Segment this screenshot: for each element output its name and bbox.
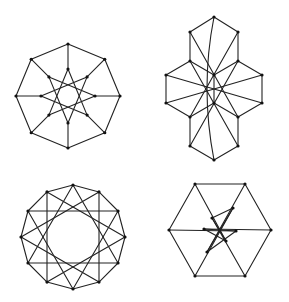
- graph-edge: [87, 59, 105, 77]
- graph-edge: [190, 146, 214, 160]
- graph-edge: [169, 230, 195, 276]
- graph-vertex: [93, 94, 96, 97]
- graph-edge: [105, 59, 120, 96]
- graph-edge: [47, 192, 125, 237]
- graph-vertex: [14, 94, 17, 97]
- graph-vertex: [26, 261, 29, 264]
- graph-edge: [28, 263, 47, 282]
- graph-edge: [73, 185, 118, 263]
- graph-edge: [68, 44, 105, 59]
- graph-vertex: [118, 94, 121, 97]
- graph-edge: [21, 192, 99, 237]
- graph-vertex: [210, 216, 213, 219]
- graph-vertex: [188, 30, 191, 33]
- graph-edge: [28, 192, 47, 211]
- graph-edge: [238, 103, 262, 117]
- graph-edge: [21, 237, 99, 282]
- graph-vertex: [234, 229, 237, 232]
- graph-vertex: [212, 73, 215, 76]
- graph-vertex: [30, 58, 33, 61]
- graph-edge: [31, 133, 68, 148]
- graph-vertex: [39, 94, 42, 97]
- graph-vertex: [188, 115, 191, 118]
- graph-vertex: [116, 261, 119, 264]
- graph-vertex: [47, 113, 50, 116]
- graph-vertex: [193, 274, 196, 277]
- graph-edge: [16, 96, 31, 133]
- graph-edge: [245, 184, 271, 230]
- graph-edge: [238, 61, 262, 75]
- graph-vertex: [205, 250, 208, 253]
- graph-vertex: [188, 144, 191, 147]
- graph-edge: [169, 184, 195, 230]
- graph-vertex: [260, 101, 263, 104]
- graph-vertex: [164, 101, 167, 104]
- graph-vertex: [30, 131, 33, 134]
- graph-vertex: [103, 58, 106, 61]
- graph-vertex: [66, 121, 69, 124]
- graph-vertex: [224, 239, 227, 242]
- graph-edge: [166, 61, 190, 75]
- graph-edge: [31, 59, 49, 77]
- graph-edge: [245, 230, 271, 276]
- graph-vertex: [236, 59, 239, 62]
- graph-vertex: [85, 113, 88, 116]
- graph-vertex: [66, 146, 69, 149]
- graph-edge: [105, 96, 120, 133]
- graph-diagram-canvas: [0, 0, 289, 302]
- graph-edge: [68, 133, 105, 148]
- graph-vertex: [26, 209, 29, 212]
- graph-vertex: [164, 73, 167, 76]
- graph-edge: [87, 115, 105, 133]
- graph-edge: [190, 17, 214, 32]
- graph-edge: [28, 185, 73, 263]
- graph-vertex: [193, 182, 196, 185]
- graph-vertex: [212, 158, 215, 161]
- graph-vertex: [167, 228, 170, 231]
- graph-edge: [47, 237, 125, 282]
- graph-vertex: [188, 59, 191, 62]
- graph-vertex: [236, 115, 239, 118]
- graph-edge: [31, 115, 49, 133]
- hexagon-twisted-star-graph: [167, 182, 272, 277]
- graph-vertex: [85, 75, 88, 78]
- graph-vertex: [123, 235, 126, 238]
- graph-vertex: [236, 144, 239, 147]
- graph-vertex: [97, 190, 100, 193]
- graph-vertex: [202, 227, 205, 230]
- three-hexagon-cluster-graph: [164, 15, 263, 161]
- graph-edge: [16, 59, 31, 96]
- dodecagon-chord-graph: [19, 183, 126, 290]
- graph-vertex: [236, 30, 239, 33]
- graph-vertex: [243, 182, 246, 185]
- graph-vertex: [71, 183, 74, 186]
- graph-vertex: [97, 280, 100, 283]
- graph-vertex: [45, 280, 48, 283]
- octagon-star-graph: [14, 42, 121, 149]
- graph-vertex: [45, 190, 48, 193]
- graph-vertex: [260, 73, 263, 76]
- graph-edge: [28, 211, 73, 289]
- graph-edge: [166, 103, 190, 117]
- graph-vertex: [47, 75, 50, 78]
- graph-vertex: [269, 228, 272, 231]
- graph-vertex: [19, 235, 22, 238]
- graph-edge: [99, 263, 118, 282]
- graph-edge: [99, 192, 118, 211]
- graph-vertex: [103, 131, 106, 134]
- graph-vertex: [212, 15, 215, 18]
- graph-vertex: [66, 67, 69, 70]
- graph-edge: [214, 146, 238, 160]
- graph-vertex: [212, 101, 215, 104]
- graph-vertex: [231, 206, 234, 209]
- graph-edge: [73, 211, 118, 289]
- graph-vertex: [243, 274, 246, 277]
- graph-vertex: [66, 42, 69, 45]
- graph-edge: [31, 44, 68, 59]
- graph-edge: [214, 17, 238, 32]
- graph-vertex: [116, 209, 119, 212]
- graph-vertex: [71, 287, 74, 290]
